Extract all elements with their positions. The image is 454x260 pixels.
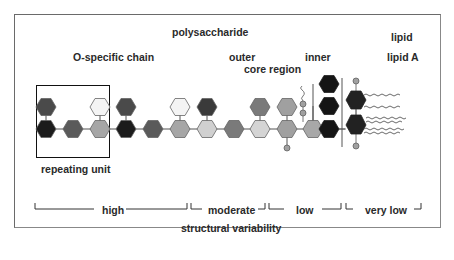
sugar-hexagon: [250, 99, 270, 116]
sugar-hexagon: [197, 99, 217, 116]
sugar-hexagon: [63, 121, 83, 138]
sugar-hexagon: [36, 99, 56, 116]
sugar-hexagon: [277, 121, 297, 138]
sugar-hexagon: [170, 99, 190, 116]
variability-very-low: very low: [365, 204, 407, 216]
glucosamine-hexagon: [346, 115, 366, 134]
main-chain-hexagons: [36, 121, 323, 138]
sugar-hexagon: [224, 121, 244, 138]
sugar-hexagon: [197, 121, 217, 138]
sugar-hexagon: [319, 121, 339, 138]
sugar-hexagon: [277, 99, 297, 116]
side-chain-squiggle: [301, 86, 305, 101]
sugar-hexagon: [36, 121, 56, 138]
sugar-hexagon: [143, 121, 163, 138]
variability-moderate: moderate: [208, 204, 255, 216]
fatty-acid-chains: [364, 94, 406, 134]
sugar-hexagon: [116, 121, 136, 138]
branch-connectors: [46, 78, 342, 147]
sugar-hexagon: [319, 76, 339, 93]
glucosamine-hexagon: [346, 91, 366, 109]
sugar-hexagon: [250, 121, 270, 138]
branch-hexagons: [36, 99, 297, 116]
inner-core-hexagons: [319, 76, 339, 138]
sugar-hexagon: [90, 99, 110, 116]
sugar-hexagon: [116, 99, 136, 116]
label-structural-variability: structural variability: [181, 222, 281, 234]
sugar-hexagon: [90, 121, 110, 138]
variability-high: high: [102, 204, 124, 216]
variability-low: low: [296, 204, 314, 216]
sugar-hexagon: [319, 98, 339, 115]
lps-structure-diagram: [0, 0, 454, 260]
sugar-hexagon: [170, 121, 190, 138]
